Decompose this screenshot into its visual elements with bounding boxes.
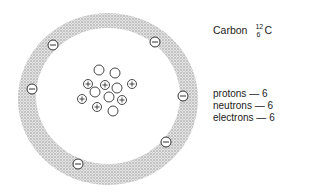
isotope-notation: 12 6: [254, 24, 264, 36]
neutrons-count: neutrons — 6: [213, 100, 275, 112]
proton: [118, 96, 127, 105]
atomic-number: 6: [256, 29, 260, 41]
electron: [161, 137, 171, 147]
proton: [84, 80, 93, 89]
proton: [78, 95, 87, 104]
neutron: [90, 87, 100, 97]
neutron: [110, 68, 120, 78]
electrons-count: electrons — 6: [213, 112, 275, 124]
electron: [150, 37, 160, 47]
protons-count: protons — 6: [213, 88, 275, 100]
neutron: [108, 106, 118, 116]
particle-counts: protons — 6 neutrons — 6 electrons — 6: [213, 88, 275, 124]
element-name: Carbon: [213, 24, 247, 36]
element-title: Carbon 12 6 C: [213, 24, 272, 36]
proton: [93, 103, 102, 112]
element-symbol: C: [264, 24, 272, 36]
electron: [27, 84, 37, 94]
neutron: [94, 65, 104, 75]
neutron: [112, 83, 122, 93]
electron: [48, 40, 58, 50]
proton: [101, 81, 110, 90]
electron: [73, 159, 83, 169]
proton: [128, 80, 137, 89]
neutron: [104, 92, 114, 102]
electron: [178, 91, 188, 101]
